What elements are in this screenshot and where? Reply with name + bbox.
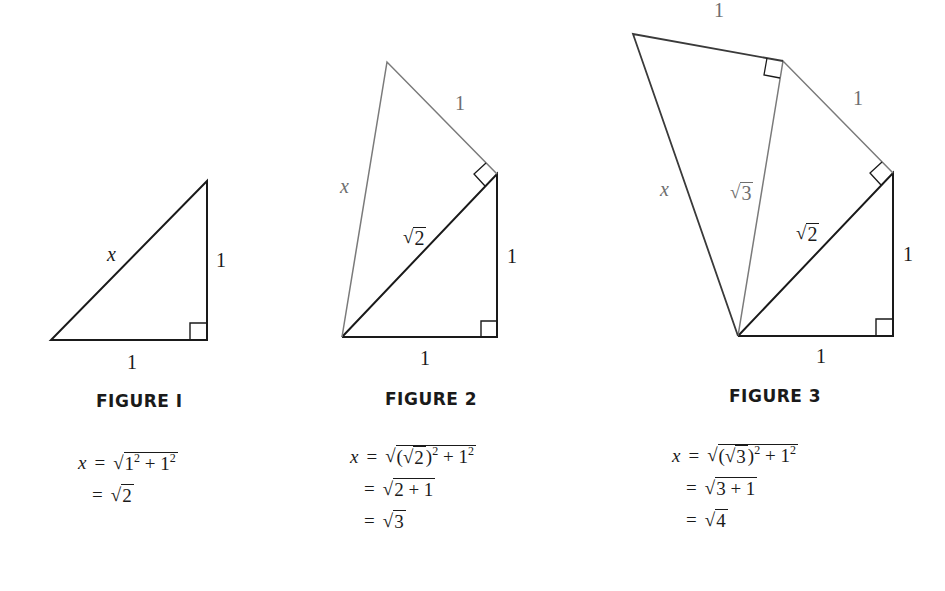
figure-3-equation: x = √(√3)2 + 12 = √3 + 1 = √4 <box>672 440 798 536</box>
figure-2-triangles <box>342 62 497 337</box>
figure-1-triangle <box>51 181 207 340</box>
figure-1-caption: FIGURE I <box>96 391 183 411</box>
figure-3-triangles <box>633 34 893 336</box>
fig3-label-second-leg: 1 <box>853 88 863 108</box>
fig3-label-sqrt3: √3 <box>730 181 753 203</box>
figure-2-caption: FIGURE 2 <box>385 389 477 409</box>
figure-1-equation: x = √12 + 12 = √2 <box>78 447 178 511</box>
fig2-label-horizontal: 1 <box>420 348 430 368</box>
fig1-label-horizontal: 1 <box>127 352 137 372</box>
fig3-label-vertical: 1 <box>903 244 913 264</box>
fig3-label-x: x <box>660 179 669 199</box>
fig3-label-top-leg-text: 1 <box>714 0 724 20</box>
fig3-label-sqrt2: √2 <box>796 222 819 244</box>
fig3-label-horizontal: 1 <box>816 346 826 366</box>
fig1-label-x: x <box>107 244 116 264</box>
fig2-label-x: x <box>340 176 349 196</box>
fig2-label-outer-leg: 1 <box>455 93 465 113</box>
figure-3-caption: FIGURE 3 <box>729 386 821 406</box>
fig1-label-vertical: 1 <box>216 250 226 270</box>
fig2-label-vertical: 1 <box>507 246 517 266</box>
fig2-label-sqrt2: √2 <box>403 226 426 248</box>
figure-2-equation: x = √(√2)2 + 12 = √2 + 1 = √3 <box>350 441 476 537</box>
